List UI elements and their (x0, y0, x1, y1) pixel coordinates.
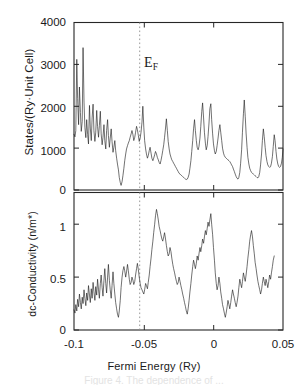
top-panel-frame (74, 23, 283, 191)
top-y-tick-3000: 3000 (22, 60, 66, 72)
fermi-level-subscript: F (153, 62, 158, 72)
bottom-y-tick-1: 1 (22, 222, 66, 234)
top-panel-data-trace (74, 48, 283, 186)
x-tick-0-05: 0.05 (255, 339, 308, 351)
x-axis-label: Fermi Energy (Ry) (0, 360, 308, 372)
bottom-panel-ticks (74, 193, 283, 331)
top-panel (74, 23, 283, 191)
bottom-panel-data-trace (74, 209, 274, 317)
bottom-panel-frame (74, 193, 283, 331)
top-y-tick-4000: 4000 (22, 17, 66, 29)
x-tick-neg-0-1: -0.1 (46, 339, 102, 351)
bottom-y-tick-0: 0 (22, 325, 66, 337)
top-panel-ticks (74, 23, 283, 191)
figure-dos-conductivity: States/(Ry·Unit Cell) dc-Conductivity (n… (0, 0, 308, 385)
caption-remnant: Figure 4. The dependence of ... (0, 375, 308, 385)
bottom-panel (74, 193, 283, 331)
top-y-tick-2000: 2000 (22, 103, 66, 115)
top-y-tick-0: 0 (22, 185, 66, 197)
fermi-level-annotation: EF (144, 55, 158, 71)
bottom-y-tick-0-5: 0.5 (22, 274, 66, 286)
x-tick-0: 0 (186, 339, 242, 351)
fermi-level-symbol: E (144, 55, 153, 70)
x-tick-neg-0-05: -0.05 (116, 339, 172, 351)
top-y-tick-1000: 1000 (22, 146, 66, 158)
bottom-panel-y-axis-label: dc-Conductivity (n/m*) (26, 184, 38, 344)
